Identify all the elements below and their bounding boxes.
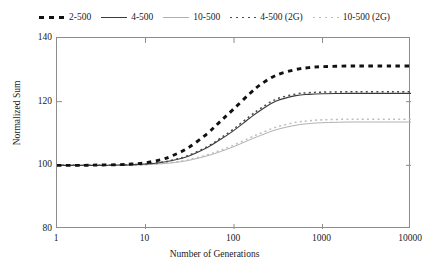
legend-item-1[interactable]: 4-500	[101, 13, 153, 23]
x-tick-label: 10000	[398, 233, 422, 243]
legend-item-3[interactable]: 4-500 (2G)	[230, 13, 302, 23]
series-line-10-500	[57, 122, 411, 165]
legend-swatch-dotted-light-icon	[313, 14, 339, 22]
y-tick-label: 100	[6, 159, 52, 169]
y-axis-title: Normalized Sum	[12, 65, 22, 161]
chart-legend: 2-500 4-500 10-500 4-500 (2G) 10-500 (2G…	[0, 9, 429, 26]
legend-item-4[interactable]: 10-500 (2G)	[313, 13, 390, 23]
y-tick-label: 80	[6, 223, 52, 233]
plot-area	[56, 37, 410, 228]
legend-swatch-dotted-dark-icon	[230, 14, 256, 22]
series-line-10-500-2g	[57, 119, 411, 165]
plot-canvas	[57, 38, 411, 229]
chart-figure: 2-500 4-500 10-500 4-500 (2G) 10-500 (2G…	[0, 0, 429, 277]
legend-label-0: 2-500	[69, 13, 91, 23]
legend-label-3: 4-500 (2G)	[260, 13, 302, 23]
series-line-4-500	[57, 93, 411, 165]
legend-swatch-solid-light-icon	[163, 14, 189, 22]
series-line-2-500	[57, 66, 411, 165]
x-tick-label: 1000	[312, 233, 331, 243]
y-tick-label: 120	[6, 96, 52, 106]
y-axis: Normalized Sum 80100120140	[0, 0, 52, 277]
x-tick-label: 1	[54, 233, 59, 243]
x-tick-label: 10	[140, 233, 150, 243]
series-line-4-500-2g	[57, 92, 411, 166]
legend-swatch-solid-dark-icon	[101, 14, 127, 22]
x-tick-label: 100	[226, 233, 240, 243]
legend-item-2[interactable]: 10-500	[163, 13, 220, 23]
legend-label-1: 4-500	[131, 13, 153, 23]
legend-label-4: 10-500 (2G)	[343, 13, 390, 23]
legend-label-2: 10-500	[193, 13, 220, 23]
x-axis-title: Number of Generations	[0, 249, 429, 259]
y-tick-label: 140	[6, 32, 52, 42]
